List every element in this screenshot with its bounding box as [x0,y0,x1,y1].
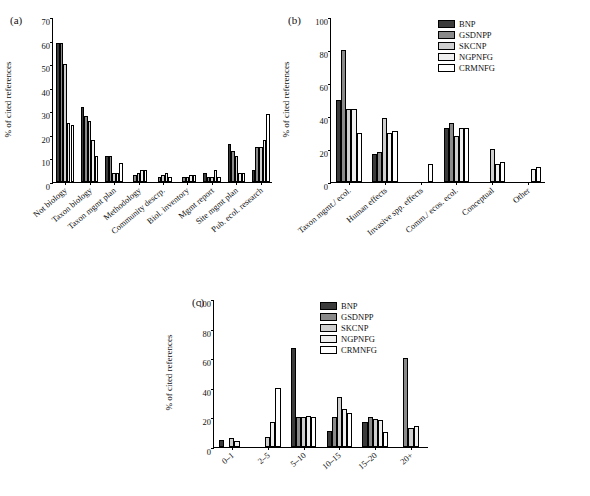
x-tick-mark [114,182,115,185]
bar [536,167,541,182]
x-tick-mark [421,182,422,185]
bar-group [219,300,245,447]
panel-label: (b) [288,14,301,26]
legend: BNPGSDNPPSKCNPNGPNFGCRMNFG [320,302,377,357]
legend-swatch [320,324,337,332]
bar [357,133,362,183]
y-tick-label: 10 [42,160,54,169]
y-axis-label: % of cited references [165,318,174,428]
bar [242,173,246,182]
legend-item: GSDNPP [320,313,377,322]
x-tick-label: 5–10 [289,451,307,468]
bar [219,440,224,447]
legend-swatch [320,346,337,354]
bar [392,131,397,182]
bar [500,162,505,182]
x-tick-mark [232,447,233,450]
bar-group [154,18,172,182]
x-tick-label: Taxon mgmt./ ecol. [296,186,352,235]
bar [311,417,316,447]
x-tick-mark [339,447,340,450]
legend-item: NGPNFG [320,335,377,344]
x-tick-mark [139,182,140,185]
legend-item: BNP [438,20,495,29]
bar-group [398,300,424,447]
y-tick-label: 30 [42,113,54,122]
x-tick-label: 2–5 [256,451,271,466]
bar [217,177,221,182]
y-axis-label: % of cited references [4,44,13,154]
legend-swatch [438,53,455,61]
legend: BNPGSDNPPSKCNPNGPNFGCRMNFG [438,20,495,75]
x-tick-mark [375,447,376,450]
bar-group [228,18,246,182]
y-tick-label: 70 [42,18,54,27]
plot-area: 010203040506070Not biologyTaxon biologyT… [52,18,272,183]
x-tick-mark [411,447,412,450]
bar-group [81,18,99,182]
bar-group [203,18,221,182]
legend-swatch [320,302,337,310]
bar [347,413,352,447]
x-tick-label: Other [511,186,531,205]
legend-item: SKCNP [438,42,495,51]
legend-label: SKCNP [341,324,368,333]
x-tick-mark [163,182,164,185]
x-tick-mark [90,182,91,185]
y-tick-label: 20 [203,419,215,428]
bar-group [105,18,123,182]
legend-label: GSDNPP [459,31,492,40]
x-tick-mark [304,447,305,450]
bar-group [515,18,541,182]
bar [168,177,172,182]
bar-group [372,18,398,182]
y-tick-label: 40 [203,389,215,398]
x-tick-label: 0–1 [220,451,235,466]
legend-swatch [438,31,455,39]
x-tick-mark [268,447,269,450]
legend-item: SKCNP [320,324,377,333]
x-tick-mark [236,182,237,185]
y-tick-label: 100 [315,18,331,27]
y-axis-label: % of cited references [282,44,291,154]
y-tick-label: 60 [42,42,54,51]
legend-item: CRMNFG [438,64,495,73]
x-tick-mark [456,182,457,185]
x-tick-label: 20+ [399,451,415,466]
legend-swatch [438,64,455,72]
bar [464,128,469,182]
legend-swatch [438,20,455,28]
x-tick-mark [492,182,493,185]
y-tick-label: 40 [42,89,54,98]
bar [119,163,123,182]
bar-group [179,18,197,182]
y-tick-label: 0 [46,183,53,192]
bar [193,175,197,182]
y-tick-label: 0 [207,448,214,457]
bar [234,441,239,447]
bar-group [130,18,148,182]
x-tick-mark [187,182,188,185]
legend-swatch [320,313,337,321]
legend-item: BNP [320,302,377,311]
bar-group [408,18,434,182]
legend-swatch [438,42,455,50]
bar [266,114,270,182]
y-tick-label: 0 [324,183,331,192]
legend-label: SKCNP [459,42,486,51]
legend-item: NGPNFG [438,53,495,62]
bar [144,170,148,182]
legend-item: GSDNPP [438,31,495,40]
x-tick-label: 15–20 [357,451,379,471]
bar-group [255,300,281,447]
bar [428,164,433,182]
bar [95,156,99,182]
y-tick-label: 80 [203,330,215,339]
legend-label: NGPNFG [341,335,375,344]
y-tick-label: 100 [198,300,214,309]
x-tick-mark [528,182,529,185]
x-tick-mark [261,182,262,185]
y-tick-label: 60 [203,359,215,368]
x-tick-label: 10–15 [321,451,343,471]
x-tick-mark [212,182,213,185]
